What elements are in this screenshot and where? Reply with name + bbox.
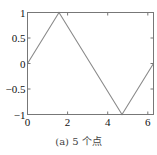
y-tick-label: −0.5 (6, 83, 26, 95)
chart-canvas: 0246 10.50−0.5−1 (0, 0, 157, 155)
y-tick-label: 0 (20, 58, 26, 70)
x-tick-label: 4 (105, 116, 111, 128)
figure-caption: (a) 5 个点 (0, 133, 157, 148)
x-tick-label: 2 (65, 116, 71, 128)
x-tick-labels: 0246 (25, 116, 151, 128)
y-tick-labels: 10.50−0.5−1 (6, 7, 26, 121)
y-tick-label: 0.5 (12, 32, 26, 44)
x-tick-label: 6 (145, 116, 151, 128)
x-tick-label: 0 (25, 116, 31, 128)
y-tick-label: −1 (14, 109, 26, 121)
y-tick-label: 1 (20, 7, 26, 19)
data-line (28, 13, 154, 115)
